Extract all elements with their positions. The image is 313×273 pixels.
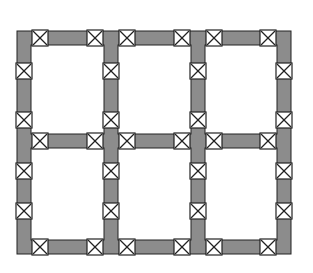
structural-frame-diagram <box>0 0 313 273</box>
bay-r0-c1 <box>118 45 191 134</box>
bay-r0-c2 <box>205 45 277 134</box>
bay-r1-c2 <box>205 148 277 240</box>
bay-r0-c0 <box>31 45 104 134</box>
bay-r1-c1 <box>118 148 191 240</box>
bay-r1-c0 <box>31 148 104 240</box>
